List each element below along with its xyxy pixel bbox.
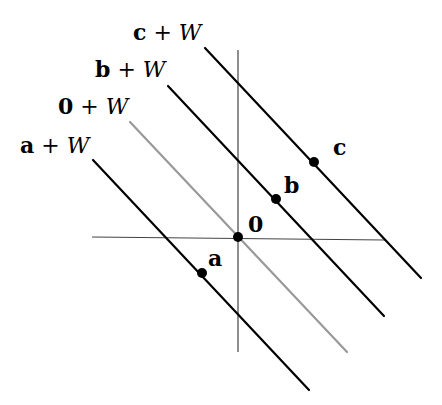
coset-diagram: a0bc a + W0 + Wb + Wc + W bbox=[0, 0, 442, 405]
point-c bbox=[309, 157, 319, 167]
point-label-b: b bbox=[284, 172, 299, 198]
point-label-a: a bbox=[208, 245, 222, 271]
point-label-0: 0 bbox=[248, 211, 263, 237]
coset-label-c: c + W bbox=[133, 19, 204, 45]
point-b bbox=[271, 194, 281, 204]
points: a0bc bbox=[197, 134, 346, 278]
point-a bbox=[197, 268, 207, 278]
line-labels: a + W0 + Wb + Wc + W bbox=[20, 19, 204, 158]
coset-label-0: 0 + W bbox=[58, 93, 131, 119]
coset-label-a: a + W bbox=[20, 132, 92, 158]
point-0 bbox=[233, 232, 243, 242]
coset-label-b: b + W bbox=[95, 56, 168, 82]
point-label-c: c bbox=[333, 134, 346, 160]
